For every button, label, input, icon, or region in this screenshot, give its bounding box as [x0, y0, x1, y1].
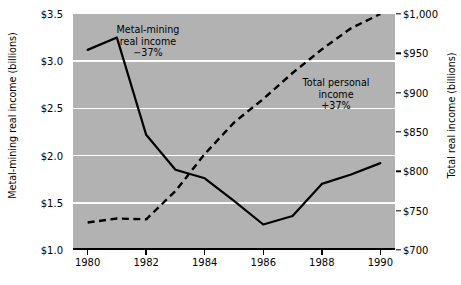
right-axis-tick-label: $850 — [403, 127, 428, 138]
right-axis-tick-mark — [396, 249, 401, 250]
right-axis-tick-mark — [396, 131, 401, 132]
x-axis-tick-label: 1986 — [251, 257, 276, 268]
left-axis-tick-label: $1.5 — [3, 197, 63, 208]
right-axis-tick-label: $700 — [403, 245, 428, 256]
right-axis-tick-label: $1,000 — [403, 9, 438, 20]
right-axis-tick-mark — [396, 210, 401, 211]
x-axis-tick-mark — [380, 250, 381, 255]
right-axis-tick-mark — [396, 53, 401, 54]
x-axis-tick-label: 1988 — [309, 257, 334, 268]
right-axis-tick-mark — [396, 13, 401, 14]
x-axis-tick-mark — [263, 250, 264, 255]
x-axis-tick-mark — [145, 250, 146, 255]
left-axis-tick-label: $1.0 — [3, 245, 63, 256]
x-axis-tick-mark — [87, 250, 88, 255]
x-axis-tick-mark — [204, 250, 205, 255]
right-axis-tick-label: $750 — [403, 205, 428, 216]
left-axis-tick-label: $2.5 — [3, 103, 63, 114]
x-axis-tick-label: 1982 — [133, 257, 158, 268]
right-axis-tick-label: $950 — [403, 48, 428, 59]
right-axis-tick-label: $800 — [403, 166, 428, 177]
x-axis-tick-mark — [321, 250, 322, 255]
right-axis-title: Total real income (billions) — [446, 0, 457, 234]
annotation-metal-mining: Metal-mining real income −37% — [93, 24, 203, 59]
left-axis-tick-label: $3.0 — [3, 56, 63, 67]
x-axis-tick-label: 1980 — [75, 257, 100, 268]
series-line-metal-mining — [88, 38, 381, 225]
chart-container: Metal-mining real income (billions) $1.0… — [0, 0, 461, 285]
x-axis-tick-label: 1990 — [368, 257, 393, 268]
left-axis-tick-label: $2.0 — [3, 150, 63, 161]
left-axis-tick-label: $3.5 — [3, 9, 63, 20]
right-axis-tick-mark — [396, 171, 401, 172]
x-axis-tick-label: 1984 — [192, 257, 217, 268]
annotation-total-personal: Total personal income +37% — [283, 77, 389, 112]
right-axis-tick-label: $900 — [403, 87, 428, 98]
right-axis-tick-mark — [396, 92, 401, 93]
